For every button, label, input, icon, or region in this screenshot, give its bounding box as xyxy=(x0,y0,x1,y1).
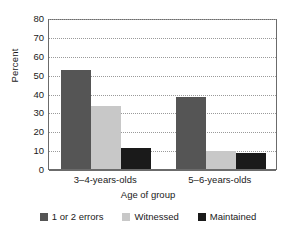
y-axis-tick-label: 30 xyxy=(4,108,44,117)
bar-1-group-1 xyxy=(206,151,236,169)
gridline xyxy=(49,57,276,58)
x-axis-tick-label: 5–6-years-olds xyxy=(160,174,280,185)
y-axis-tick-label: 0 xyxy=(4,165,44,174)
legend-label: Maintained xyxy=(210,212,256,222)
y-axis-tick-label: 80 xyxy=(4,14,44,23)
y-axis-tick-label: 10 xyxy=(4,146,44,155)
y-axis-tick-label: 40 xyxy=(4,90,44,99)
plot-inner xyxy=(49,20,276,169)
bar-0-group-0 xyxy=(61,70,91,169)
bar-0-group-1 xyxy=(176,97,206,169)
legend-swatch-icon xyxy=(122,213,130,221)
gridline xyxy=(49,19,276,20)
bar-1-group-0 xyxy=(91,106,121,169)
legend-item-0: 1 or 2 errors xyxy=(40,212,104,222)
legend-label: Witnessed xyxy=(134,212,178,222)
legend-item-1: Witnessed xyxy=(122,212,178,222)
y-axis-tick-label: 60 xyxy=(4,52,44,61)
bar-2-group-1 xyxy=(236,153,266,169)
legend-item-2: Maintained xyxy=(198,212,256,222)
x-axis-tick-label: 3–4-years-olds xyxy=(45,174,165,185)
y-axis-tick-label: 50 xyxy=(4,71,44,80)
legend-swatch-icon xyxy=(198,213,206,221)
gridline xyxy=(49,170,276,171)
plot-area xyxy=(48,19,277,170)
bar-2-group-0 xyxy=(121,148,151,169)
x-axis-title: Age of group xyxy=(0,189,296,200)
gridline xyxy=(49,38,276,39)
legend-swatch-icon xyxy=(40,213,48,221)
bar-chart-figure: Percent 01020304050607080 3–4-years-olds… xyxy=(0,0,296,237)
y-axis-tick-label: 70 xyxy=(4,33,44,42)
y-axis-tick-label: 20 xyxy=(4,127,44,136)
legend-label: 1 or 2 errors xyxy=(52,212,104,222)
chart-legend: 1 or 2 errorsWitnessedMaintained xyxy=(0,212,296,222)
